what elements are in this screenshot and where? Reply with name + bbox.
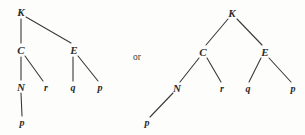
tree-node-L-p1: p bbox=[98, 83, 103, 93]
tree-edge-L-C-to-L-r bbox=[25, 56, 43, 81]
tree-node-L-K: K bbox=[17, 7, 24, 18]
tree-edge-R-C-to-R-N bbox=[180, 58, 199, 82]
tree-edge-R-K-to-R-E bbox=[237, 19, 262, 45]
tree-node-L-q: q bbox=[71, 83, 76, 93]
tree-edge-R-E-to-R-p1 bbox=[269, 58, 291, 82]
tree-edge-L-E-to-L-p1 bbox=[78, 56, 98, 81]
tree-node-R-p1: p bbox=[291, 84, 296, 94]
tree-edge-L-N-to-L-p2 bbox=[21, 93, 22, 116]
tree-node-L-N: N bbox=[17, 82, 25, 93]
tree-edge-R-N-to-R-p2 bbox=[150, 93, 173, 117]
tree-node-R-N: N bbox=[173, 83, 181, 94]
tree-edge-L-K-to-L-E bbox=[26, 17, 71, 43]
tree-node-R-q: q bbox=[246, 84, 251, 94]
tree-node-L-p2: p bbox=[20, 118, 25, 128]
tree-node-R-E: E bbox=[261, 47, 268, 58]
tree-edge-R-K-to-R-C bbox=[206, 19, 228, 45]
tree-node-L-r: r bbox=[44, 83, 48, 93]
edge-group bbox=[21, 17, 291, 117]
or-connector-label: or bbox=[133, 53, 141, 63]
tree-edge-R-C-to-R-r bbox=[207, 58, 221, 82]
tree-node-R-C: C bbox=[199, 47, 206, 58]
figure-canvas: KCENrqppKCENrqppor bbox=[0, 0, 305, 135]
tree-node-L-E: E bbox=[70, 45, 77, 56]
tree-edges-layer bbox=[0, 0, 305, 135]
tree-node-R-r: r bbox=[220, 84, 224, 94]
tree-node-L-C: C bbox=[17, 45, 24, 56]
tree-node-R-p2: p bbox=[145, 118, 150, 128]
tree-edge-R-E-to-R-q bbox=[249, 58, 261, 82]
tree-node-R-K: K bbox=[228, 8, 235, 19]
